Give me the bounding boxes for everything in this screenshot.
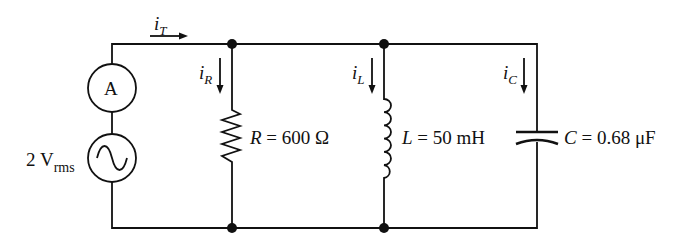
arrow-down-icon <box>369 85 376 94</box>
inductor-branch <box>384 44 391 228</box>
inductor-label: L = 50 mH <box>402 128 485 147</box>
top-wire <box>112 44 537 132</box>
capacitor-label: C = 0.68 μF <box>564 128 656 147</box>
resistor-label: R = 600 Ω <box>250 128 329 147</box>
node-dot <box>227 223 237 233</box>
current-label-capacitor: iC <box>503 63 517 82</box>
ammeter-label: A <box>104 79 118 98</box>
bottom-wire <box>112 142 537 228</box>
source-subscript: rms <box>54 160 75 175</box>
arrow-down-icon <box>217 85 224 94</box>
current-label-total: iT <box>154 14 167 33</box>
node-dot <box>227 39 237 49</box>
source-value: 2 V <box>26 149 54 170</box>
current-label-resistor: iR <box>199 63 212 82</box>
node-dot <box>379 223 389 233</box>
resistor-branch <box>222 44 240 228</box>
sine-wave-icon <box>97 146 127 170</box>
current-label-inductor: iL <box>352 63 365 82</box>
circuit-diagram <box>0 0 688 248</box>
arrow-down-icon <box>521 85 528 94</box>
node-dot <box>379 39 389 49</box>
source-label: 2 Vrms <box>26 150 75 169</box>
arrow-right-icon <box>179 33 188 40</box>
